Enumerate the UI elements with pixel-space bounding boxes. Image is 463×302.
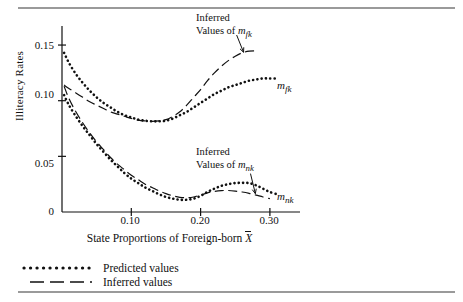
series-label-mfk-var: m [277, 79, 285, 91]
x-tick-label-030: 0.30 [252, 214, 286, 226]
chart-axes [58, 26, 300, 216]
legend-item-inferred: Inferred values [22, 275, 179, 289]
annotation-inferred-mnk-line2: Values of mnk [196, 159, 254, 175]
series-label-mfk: mfk [277, 79, 292, 94]
annotation-inferred-mfk-var: m [238, 25, 246, 36]
annotation-inferred-mnk-sub: nk [246, 163, 254, 173]
annotation-inferred-mfk-prefix: Values of [196, 25, 238, 36]
chart-series-line [64, 51, 256, 121]
annotation-inferred-mfk-sub: fk [246, 29, 252, 39]
annotation-inferred-mfk-line2: Values of mfk [196, 25, 252, 41]
chart-series-group [64, 51, 277, 200]
y-tick-label-0: 0 [20, 205, 54, 217]
series-label-mfk-sub: fk [285, 84, 292, 94]
legend-label-inferred: Inferred values [103, 275, 172, 289]
y-tick-label-005: 0.05 [20, 157, 54, 169]
chart-series-line [64, 53, 277, 122]
annotation-inferred-mnk-line1: Inferred [196, 146, 254, 159]
figure-container: Illiteracy Rates State Proportions of Fo… [0, 0, 463, 302]
y-tick-label-010: 0.10 [20, 88, 54, 100]
dotted-line-key-icon [22, 262, 96, 274]
x-tick-label-020: 0.20 [183, 214, 217, 226]
annotation-inferred-mnk-var: m [238, 159, 246, 170]
dashed-line-key [22, 276, 96, 288]
annotation-inferred-mfk-line1: Inferred [196, 12, 252, 25]
annotation-inferred-mnk-prefix: Values of [196, 159, 238, 170]
annotation-inferred-mfk: Inferred Values of mfk [196, 12, 252, 40]
legend-item-predicted: Predicted values [22, 261, 179, 275]
annotation-inferred-mnk: Inferred Values of mnk [196, 146, 254, 174]
x-axis-title-variable: X [245, 232, 252, 244]
dotted-line-key [22, 262, 96, 274]
x-tick-label-010: 0.10 [113, 214, 147, 226]
y-tick-label-015: 0.15 [20, 39, 54, 51]
chart-legend: Predicted values Inferred values [22, 261, 179, 289]
x-axis-title-prefix: State Proportions of Foreign-born [87, 232, 245, 244]
series-label-mnk: mnk [277, 190, 294, 205]
series-label-mnk-var: m [277, 190, 285, 202]
x-axis-title: State Proportions of Foreign-born X [62, 232, 277, 244]
series-label-mnk-sub: nk [285, 195, 294, 205]
legend-label-predicted: Predicted values [103, 261, 179, 275]
dashed-line-key-icon [22, 276, 96, 288]
